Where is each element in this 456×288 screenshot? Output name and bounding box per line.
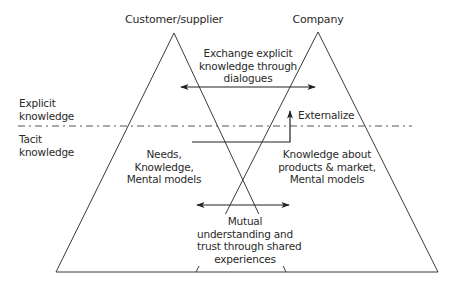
mutual-line-2: understanding and — [197, 228, 293, 241]
mutual-line-4: experiences — [197, 253, 293, 266]
mutual-line-1: Mutual — [197, 215, 293, 228]
exchange-line-3: dialogues — [190, 72, 306, 85]
company-contents-line-1: Knowledge about — [272, 148, 382, 161]
tacit-knowledge-label: Tacit knowledge — [19, 133, 74, 158]
explicit-knowledge-label: Explicit knowledge — [19, 97, 74, 122]
exchange-text: Exchange explicit knowledge through dial… — [190, 47, 306, 85]
explicit-line-2: knowledge — [19, 110, 74, 123]
customer-contents: Needs, Knowledge, Mental models — [122, 148, 206, 186]
tacit-line-2: knowledge — [19, 146, 74, 159]
company-title: Company — [288, 14, 348, 27]
company-contents: Knowledge about products & market, Menta… — [272, 148, 382, 186]
mutual-understanding-text: Mutual understanding and trust through s… — [197, 214, 293, 266]
mutual-line-3: trust through shared — [197, 240, 293, 253]
tacit-line-1: Tacit — [19, 133, 74, 146]
customer-supplier-title: Customer/supplier — [124, 14, 224, 27]
customer-contents-line-3: Mental models — [122, 173, 206, 186]
company-contents-line-2: products & market, — [272, 161, 382, 174]
customer-contents-line-1: Needs, — [122, 148, 206, 161]
exchange-line-2: knowledge through — [190, 60, 306, 73]
company-contents-line-3: Mental models — [272, 173, 382, 186]
customer-contents-line-2: Knowledge, — [122, 161, 206, 174]
externalize-label: Externalize — [298, 109, 354, 122]
exchange-line-1: Exchange explicit — [190, 47, 306, 60]
explicit-line-1: Explicit — [19, 97, 74, 110]
